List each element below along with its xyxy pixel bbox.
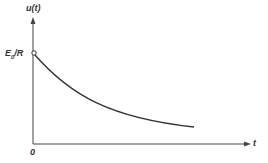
initial-value-marker [32,51,36,55]
origin-label: 0 [30,148,35,157]
y-axis-arrow-icon [31,17,36,24]
initial-value-tail: /R [14,48,23,58]
initial-value-label: E0/R [5,49,23,60]
x-axis-label: t [253,139,256,148]
chart-canvas [0,0,268,163]
decay-curve [35,55,194,127]
x-axis-arrow-icon [244,142,251,147]
y-axis-label: u(t) [26,4,41,13]
